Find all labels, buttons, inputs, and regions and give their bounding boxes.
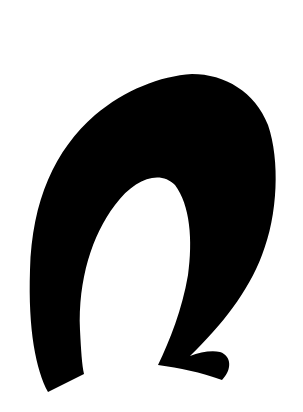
omega-glyph-icon	[0, 0, 303, 412]
glyph-canvas	[0, 0, 303, 412]
